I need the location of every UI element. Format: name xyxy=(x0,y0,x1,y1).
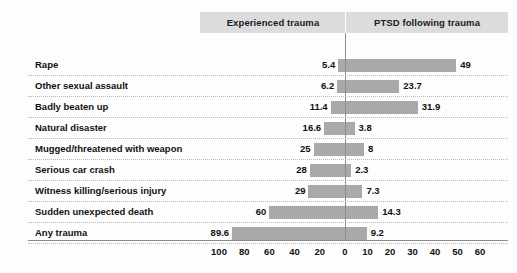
bar-ptsd-following-trauma xyxy=(346,185,362,198)
bar-experienced-trauma xyxy=(308,185,345,198)
bar-experienced-trauma xyxy=(324,122,345,135)
bar-value-experienced-trauma: 5.4 xyxy=(322,55,335,76)
bar-value-ptsd-following-trauma: 14.3 xyxy=(382,202,401,223)
axis-tick-labels: 100806040200102030405060 xyxy=(0,246,517,262)
bar-experienced-trauma xyxy=(314,143,346,156)
chart-row: Natural disaster16.63.8 xyxy=(0,118,517,139)
chart-row: Badly beaten up11.431.9 xyxy=(0,97,517,118)
bar-value-experienced-trauma: 60 xyxy=(256,202,267,223)
panel-header-band: Experienced trauma PTSD following trauma xyxy=(200,12,508,33)
ptsd-trauma-chart: Experienced trauma PTSD following trauma… xyxy=(0,0,517,273)
bar-value-ptsd-following-trauma: 2.3 xyxy=(355,160,368,181)
panel-header-experienced-trauma: Experienced trauma xyxy=(200,12,346,33)
bar-value-experienced-trauma: 25 xyxy=(300,139,311,160)
bar-value-ptsd-following-trauma: 49 xyxy=(460,55,471,76)
category-label: Witness killing/serious injury xyxy=(35,181,166,202)
bar-value-experienced-trauma: 11.4 xyxy=(310,97,328,118)
bar-value-ptsd-following-trauma: 23.7 xyxy=(403,76,422,97)
bar-value-ptsd-following-trauma: 8 xyxy=(368,139,373,160)
chart-row: Mugged/threatened with weapon258 xyxy=(0,139,517,160)
plot-area: Rape5.449Other sexual assault6.223.7Badl… xyxy=(0,33,517,240)
bar-value-experienced-trauma: 6.2 xyxy=(321,76,334,97)
bar-value-experienced-trauma: 29 xyxy=(295,181,306,202)
panel-header-ptsd-following-trauma: PTSD following trauma xyxy=(346,12,508,33)
bar-experienced-trauma xyxy=(310,164,345,177)
bar-experienced-trauma xyxy=(337,80,345,93)
category-label: Serious car crash xyxy=(35,160,115,181)
bar-value-ptsd-following-trauma: 31.9 xyxy=(422,97,441,118)
chart-row: Serious car crash282.3 xyxy=(0,160,517,181)
bar-experienced-trauma xyxy=(331,101,345,114)
chart-row: Witness killing/serious injury297.3 xyxy=(0,181,517,202)
bar-value-ptsd-following-trauma: 3.8 xyxy=(359,118,372,139)
bar-ptsd-following-trauma xyxy=(346,227,367,240)
bar-ptsd-following-trauma xyxy=(346,59,456,72)
bar-ptsd-following-trauma xyxy=(346,101,418,114)
chart-row: Rape5.449 xyxy=(0,55,517,76)
category-label: Mugged/threatened with weapon xyxy=(35,139,182,160)
category-label: Natural disaster xyxy=(35,118,107,139)
category-label: Sudden unexpected death xyxy=(35,202,153,223)
header-center-divider xyxy=(345,12,346,33)
bar-ptsd-following-trauma xyxy=(346,164,351,177)
category-label: Rape xyxy=(35,55,58,76)
category-label: Other sexual assault xyxy=(35,76,128,97)
bar-ptsd-following-trauma xyxy=(346,143,364,156)
bar-ptsd-following-trauma xyxy=(346,80,399,93)
chart-row: Sudden unexpected death6014.3 xyxy=(0,202,517,223)
bar-experienced-trauma xyxy=(338,59,345,72)
bar-ptsd-following-trauma xyxy=(346,206,378,219)
bar-value-experienced-trauma: 16.6 xyxy=(303,118,322,139)
row-gridline xyxy=(28,242,508,244)
bar-ptsd-following-trauma xyxy=(346,122,355,135)
bar-value-experienced-trauma: 28 xyxy=(296,160,307,181)
bar-value-ptsd-following-trauma: 7.3 xyxy=(366,181,379,202)
tick-label-right: 60 xyxy=(465,246,495,257)
chart-row: Other sexual assault6.223.7 xyxy=(0,76,517,97)
bar-experienced-trauma xyxy=(232,227,345,240)
category-label: Badly beaten up xyxy=(35,97,108,118)
bottom-axis-line xyxy=(28,240,508,241)
bar-experienced-trauma xyxy=(269,206,345,219)
